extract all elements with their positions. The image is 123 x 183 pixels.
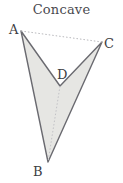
concave-polygon-figure: Concave A C D B bbox=[0, 0, 123, 183]
dotted-line-a-c bbox=[21, 31, 102, 42]
vertex-label-b: B bbox=[33, 164, 43, 179]
vertex-label-a: A bbox=[8, 22, 19, 37]
vertex-label-c: C bbox=[104, 36, 114, 51]
vertex-label-d: D bbox=[57, 67, 67, 82]
concave-quadrilateral-shape bbox=[21, 31, 102, 162]
polygon-diagram-svg: A C D B bbox=[0, 0, 123, 183]
